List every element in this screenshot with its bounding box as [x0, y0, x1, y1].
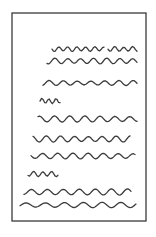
document-page-icon — [0, 0, 156, 237]
document-sketch — [0, 0, 156, 237]
